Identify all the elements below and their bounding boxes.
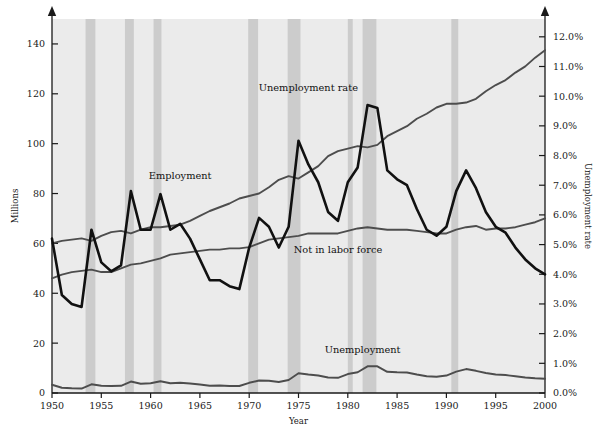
x-axis-title: Year [288,416,309,426]
x-tick-label: 1980 [336,400,360,411]
y-right-tick-label: 4.0% [553,269,577,280]
y-left-tick-label: 20 [33,338,45,349]
y-right-tick-label: 3.0% [553,298,577,309]
y-right-tick-label: 6.0% [553,209,577,220]
x-tick-label: 1960 [139,400,163,411]
employment-unemployment-chart: 1950195519601965197019751980198519901995… [0,0,599,438]
y-right-tick-label: 8.0% [553,150,577,161]
x-tick-label: 1965 [188,400,212,411]
y-left-tick-label: 80 [33,188,45,199]
recession-band [348,19,353,393]
x-tick-label: 1970 [237,400,261,411]
chart-figure: 1950195519601965197019751980198519901995… [0,0,599,438]
y-left-tick-label: 40 [33,288,45,299]
y-left-tick-label: 100 [27,138,45,149]
y-right-tick-label: 12.0% [553,31,583,42]
x-tick-label: 1995 [484,400,508,411]
y-right-tick-label: 0.0% [553,387,577,398]
series-label: Unemployment [325,344,401,355]
x-tick-label: 2000 [533,400,557,411]
y-left-tick-label: 140 [27,38,45,49]
y-right-tick-label: 10.0% [553,91,583,102]
y-right-tick-label: 2.0% [553,328,577,339]
y-left-tick-label: 60 [33,238,45,249]
recession-band [363,19,377,393]
x-tick-label: 1990 [434,400,458,411]
y-right-tick-label: 11.0% [553,61,583,72]
clipped-caption [0,431,599,438]
recession-band [288,19,301,393]
y-left-tick-label: 0 [39,387,45,398]
y-left-tick-label: 120 [27,88,45,99]
y-right-tick-label: 7.0% [553,180,577,191]
y-axis-right-title: Unemployment rate [583,163,593,249]
recession-band [86,19,96,393]
series-label: Not in labor force [294,244,383,255]
y-axis-left-title: Millions [10,189,20,224]
x-tick-label: 1975 [286,400,310,411]
x-tick-label: 1950 [40,400,64,411]
series-label: Employment [149,170,212,181]
y-right-tick-label: 9.0% [553,120,577,131]
x-tick-label: 1955 [89,400,113,411]
x-tick-label: 1985 [385,400,409,411]
recession-band [248,19,258,393]
y-right-tick-label: 5.0% [553,239,577,250]
y-right-tick-label: 1.0% [553,358,577,369]
series-label: Unemployment rate [259,82,358,93]
